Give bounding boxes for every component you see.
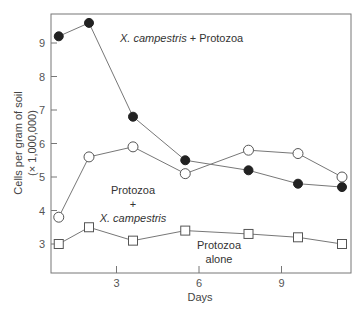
- y-axis-label: Cells per gram of soil: [12, 91, 24, 194]
- x-axis-label: Days: [187, 291, 213, 303]
- data-point: [54, 212, 64, 222]
- y-tick-label: 6: [39, 138, 45, 150]
- y-tick-label: 3: [39, 238, 45, 250]
- series-open-circle: [54, 142, 347, 222]
- annotation-protozoa-xc-line2: +: [130, 198, 136, 210]
- data-point: [181, 156, 190, 165]
- data-point: [180, 169, 190, 179]
- data-point: [337, 172, 347, 182]
- data-point: [128, 142, 138, 152]
- annotation-xc-protozoa: X. campestris + Protozoa: [119, 32, 244, 44]
- data-point: [181, 226, 190, 235]
- series-line: [59, 23, 342, 187]
- data-point: [338, 240, 347, 249]
- data-point: [54, 240, 63, 249]
- y-tick-label: 9: [39, 37, 45, 49]
- x-tick-label: 9: [278, 277, 284, 289]
- data-point: [85, 223, 94, 232]
- annotation-protozoa-xc-line3: X. campestris: [99, 212, 167, 224]
- data-point: [294, 179, 303, 188]
- y-tick-label: 8: [39, 71, 45, 83]
- data-point: [293, 149, 303, 159]
- x-axis: 369: [113, 266, 284, 289]
- annotation-protozoa-alone-line2: alone: [206, 253, 233, 265]
- data-point: [244, 229, 253, 238]
- data-point: [129, 112, 138, 121]
- line-chart: 3456789 369 Days Cells per gram of soil …: [0, 0, 363, 317]
- data-point: [338, 183, 347, 192]
- series-filled-circle: [54, 18, 346, 191]
- y-axis-label-units: (× 1,000,000): [26, 110, 38, 176]
- x-tick-label: 6: [196, 277, 202, 289]
- y-tick-label: 4: [39, 205, 45, 217]
- annotation-protozoa-alone-line1: Protozoa: [197, 239, 242, 251]
- data-point: [85, 18, 94, 27]
- series-group: [54, 18, 347, 248]
- annotation-protozoa-xc-line1: Protozoa: [111, 184, 156, 196]
- data-point: [294, 233, 303, 242]
- data-point: [84, 152, 94, 162]
- data-point: [244, 145, 254, 155]
- x-tick-label: 3: [113, 277, 119, 289]
- data-point: [244, 166, 253, 175]
- data-point: [129, 236, 138, 245]
- plot-frame: [51, 14, 351, 273]
- y-tick-label: 5: [39, 171, 45, 183]
- data-point: [54, 32, 63, 41]
- y-tick-label: 7: [39, 104, 45, 116]
